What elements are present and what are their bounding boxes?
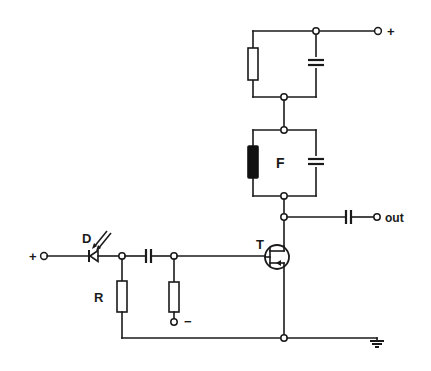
filter-label: F (276, 155, 285, 171)
output-terminal (374, 214, 380, 220)
bias-resistor (169, 282, 179, 312)
filter-f: F (248, 127, 324, 199)
node (281, 127, 287, 133)
output-label: out (385, 211, 404, 225)
ground-icon (370, 338, 384, 347)
resistor-label: R (94, 290, 104, 305)
load-rc-network (248, 28, 378, 100)
crystal-element (248, 146, 258, 178)
photodiode-label: D (82, 231, 91, 246)
transistor-label: T (256, 237, 264, 252)
resistor-r (117, 281, 127, 312)
bias-minus-label: − (184, 314, 192, 329)
supply-terminal (375, 28, 382, 35)
node (313, 28, 319, 34)
bias-terminal (171, 319, 177, 325)
photodiode-d: D (82, 231, 119, 262)
supply-plus-label: + (387, 24, 395, 39)
load-resistor (248, 48, 258, 80)
circuit-diagram: + F out T + (0, 0, 431, 371)
input-plus-label: + (29, 249, 37, 264)
